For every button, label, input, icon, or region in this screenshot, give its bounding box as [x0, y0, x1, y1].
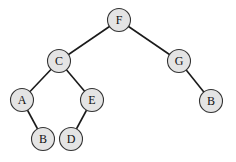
- node-label: B: [207, 94, 215, 108]
- node-label: A: [18, 93, 27, 107]
- node-label: E: [88, 93, 95, 107]
- tree-node-e: E: [81, 89, 104, 112]
- node-label: D: [67, 132, 76, 146]
- tree-node-b-left: B: [32, 128, 55, 151]
- node-label: C: [55, 54, 63, 68]
- edges: [22, 20, 211, 139]
- tree-node-b-right: B: [200, 90, 223, 113]
- tree-node-c: C: [48, 50, 71, 73]
- tree-node-g: G: [168, 50, 191, 73]
- tree-node-f: F: [108, 9, 131, 32]
- node-label: B: [39, 132, 47, 146]
- binary-tree-diagram: F C G A E B B D: [0, 0, 236, 162]
- tree-node-a: A: [11, 89, 34, 112]
- node-label: F: [116, 13, 123, 27]
- tree-node-d: D: [60, 128, 83, 151]
- node-label: G: [175, 54, 184, 68]
